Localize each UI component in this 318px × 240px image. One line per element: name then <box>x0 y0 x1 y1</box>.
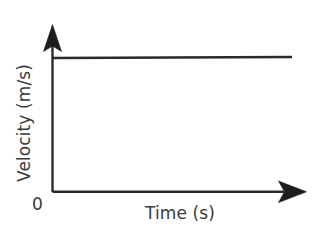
velocity-time-graph-figure: Velocity (m/s) Time (s) 0 <box>0 0 318 240</box>
x-axis-label: Time (s) <box>0 205 318 222</box>
constant-velocity-line <box>53 57 293 58</box>
origin-tick-label: 0 <box>32 196 43 213</box>
